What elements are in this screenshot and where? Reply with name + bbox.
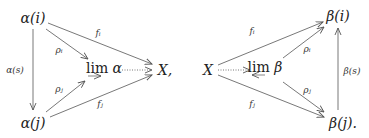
lim-symbol: β xyxy=(274,59,282,75)
label-rho-i-right: ρᵢ xyxy=(303,45,310,54)
node-lim-beta: lim β xyxy=(248,60,283,74)
label-rho-j-left: ρⱼ xyxy=(55,85,63,94)
arrow-f-j-right xyxy=(218,75,324,117)
label-f-i-left: fᵢ xyxy=(95,29,100,38)
node-lim-alpha: lim α xyxy=(86,61,122,75)
lim-text: lim xyxy=(248,59,270,75)
label-f-i-right: fᵢ xyxy=(249,27,254,36)
node-x-right: X xyxy=(203,63,213,77)
arrow-f-j-left xyxy=(50,75,152,117)
node-x-left: X, xyxy=(158,63,172,77)
node-beta-i: β(i) xyxy=(326,9,350,23)
node-alpha-j: α(j) xyxy=(21,116,46,130)
lim-text: lim xyxy=(86,60,108,76)
label-rho-i-left: ρᵢ xyxy=(55,46,62,55)
label-beta-s: β(s) xyxy=(344,67,361,76)
commutative-diagrams: α(i) α(j) lim α X, α(s) fᵢ ρᵢ ρⱼ fⱼ X li… xyxy=(0,0,369,138)
label-rho-j-right: ρⱼ xyxy=(303,86,311,95)
label-f-j-right: fⱼ xyxy=(249,100,255,109)
arrows-layer xyxy=(0,0,369,138)
arrow-rho-j-left xyxy=(46,81,85,112)
node-beta-j: β(j). xyxy=(329,116,357,130)
node-alpha-i: α(i) xyxy=(21,11,46,25)
label-f-j-left: fⱼ xyxy=(97,100,103,109)
arrow-rho-i-left xyxy=(46,29,88,59)
label-alpha-s: α(s) xyxy=(6,66,24,75)
lim-symbol: α xyxy=(113,60,122,76)
